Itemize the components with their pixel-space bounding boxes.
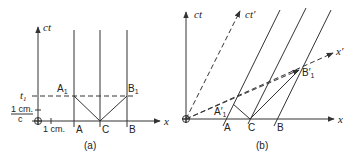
x-axis-label: x [337,113,343,125]
light-signal-c-to-a-prime [233,104,250,119]
point-b-label: B [277,122,284,133]
x-prime-axis-label: x′ [335,45,344,57]
ct-prime-axis [186,11,240,119]
x-unit-label: 1 cm. [43,124,65,134]
point-a1-label: A1 [57,83,68,95]
panel-a-caption: (a) [84,140,96,151]
point-b-label: B [129,124,136,135]
point-c-label: C [248,122,255,133]
light-signal-c-to-b [100,96,127,121]
ct-prime-axis-label: ct′ [245,8,256,20]
unit-fraction-numerator: 1 cm. [11,104,33,114]
panel-b-caption: (b) [256,140,268,151]
worldline-c [248,8,306,124]
point-a-label: A [76,124,83,135]
simultaneity-line-prime [186,70,299,119]
point-a-label: A [224,122,231,133]
point-a1-prime-label: A′1 [214,106,227,118]
point-b1-label: B1 [128,83,139,95]
point-c-label: C [102,124,109,135]
light-signal-c-to-b-prime [250,70,299,119]
origin-marker-icon [34,117,42,125]
ct-axis-label: ct [194,8,203,20]
panel-a: ct x t1 1 cm. c 1 cm. A1 B1 A C B (a) [11,21,169,151]
ct-axis-label: ct [43,21,52,33]
spacetime-diagram: ct x t1 1 cm. c 1 cm. A1 B1 A C B (a) [0,0,353,154]
t1-label: t1 [20,89,27,103]
panel-b: ct x ct′ x′ A′1 B′1 A C B (b) [182,8,344,151]
light-signal-c-to-a [74,96,100,121]
point-b1-prime-label: B′1 [302,67,315,79]
worldline-a [223,10,280,126]
x-axis-label: x [163,115,169,127]
unit-fraction-denominator: c [18,114,23,124]
